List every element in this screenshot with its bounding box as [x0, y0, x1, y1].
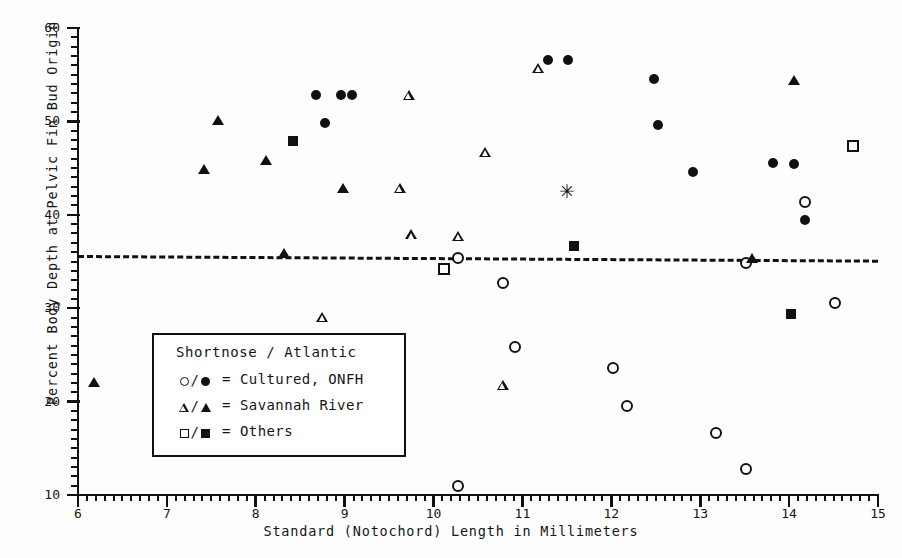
legend-label: Cultured, ONFH	[240, 371, 364, 387]
x-tick-minor	[539, 494, 541, 501]
y-tick-minor	[71, 475, 79, 477]
x-tick-minor	[681, 494, 683, 501]
data-point-circle-open	[799, 196, 811, 208]
x-tick-minor	[708, 494, 710, 501]
x-tick-minor	[655, 494, 657, 501]
data-point-circle-filled	[789, 159, 799, 169]
data-point-circle-open	[497, 277, 509, 289]
data-point-triangle-filled	[278, 248, 290, 258]
data-point-triangle-filled	[788, 75, 800, 85]
x-tick-minor	[388, 494, 390, 501]
y-tick-minor	[71, 270, 79, 272]
data-point-circle-filled	[311, 90, 321, 100]
data-point-circle-open	[452, 252, 464, 264]
y-tick-minor	[71, 176, 79, 178]
x-tick-label: 6	[58, 506, 98, 521]
legend-label: Savannah River	[240, 397, 364, 413]
data-point-triangle-filled	[337, 183, 349, 193]
y-tick-minor	[71, 429, 79, 431]
y-tick-major	[67, 27, 80, 29]
x-tick-minor	[459, 494, 461, 501]
x-tick-minor	[673, 494, 675, 501]
x-tick-minor	[424, 494, 426, 501]
x-tick-minor	[770, 494, 772, 501]
x-tick-minor	[397, 494, 399, 501]
data-point-circle-filled	[688, 167, 698, 177]
data-point-circle-filled	[336, 90, 346, 100]
x-tick-minor	[513, 494, 515, 501]
y-tick-minor	[71, 167, 79, 169]
x-tick-minor	[86, 494, 88, 501]
reference-line	[78, 255, 878, 263]
x-tick-minor	[113, 494, 115, 501]
legend-slash: /	[189, 424, 202, 440]
x-tick-minor	[557, 494, 559, 501]
x-tick-minor	[468, 494, 470, 501]
y-tick-minor	[71, 335, 79, 337]
circle-open-icon	[180, 377, 189, 386]
x-tick-minor	[779, 494, 781, 501]
x-tick-minor	[637, 494, 639, 501]
x-tick-minor	[130, 494, 132, 501]
square-filled-icon	[201, 429, 210, 438]
data-point-triangle-open	[497, 380, 509, 390]
y-tick-minor	[71, 223, 79, 225]
x-tick-minor	[753, 494, 755, 501]
y-tick-minor	[71, 326, 79, 328]
data-point-triangle-filled	[212, 115, 224, 125]
y-tick-label: 40	[24, 207, 60, 222]
x-tick-minor	[121, 494, 123, 501]
data-point-circle-open	[710, 427, 722, 439]
x-tick-minor	[486, 494, 488, 501]
triangle-filled-icon	[201, 403, 211, 412]
y-tick-minor	[71, 382, 79, 384]
x-tick-minor	[575, 494, 577, 501]
x-tick-minor	[619, 494, 621, 501]
x-tick-minor	[361, 494, 363, 501]
y-tick-minor	[71, 64, 79, 66]
y-tick-minor	[71, 466, 79, 468]
x-tick-minor	[664, 494, 666, 501]
y-tick-minor	[71, 251, 79, 253]
data-point-circle-filled	[563, 55, 573, 65]
legend-row: /=Others	[168, 423, 293, 447]
y-tick-label: 30	[24, 300, 60, 315]
y-tick-major	[67, 400, 80, 402]
data-point-square-filled	[786, 309, 796, 319]
y-tick-minor	[71, 485, 79, 487]
y-tick-minor	[71, 419, 79, 421]
x-tick-minor	[593, 494, 595, 501]
y-tick-major	[67, 120, 80, 122]
x-tick-label: 15	[858, 506, 898, 521]
x-tick-minor	[646, 494, 648, 501]
y-tick-minor	[71, 92, 79, 94]
y-tick-minor	[71, 242, 79, 244]
data-point-circle-open	[740, 463, 752, 475]
data-point-triangle-filled	[198, 164, 210, 174]
data-point-circle-open	[509, 341, 521, 353]
x-tick-minor	[530, 494, 532, 501]
data-point-square-filled	[569, 241, 579, 251]
data-point-circle-filled	[347, 90, 357, 100]
y-tick-minor	[71, 279, 79, 281]
x-tick-minor	[806, 494, 808, 501]
x-tick-label: 13	[680, 506, 720, 521]
y-tick-minor	[71, 195, 79, 197]
x-tick-minor	[601, 494, 603, 501]
x-tick-minor	[744, 494, 746, 501]
x-tick-minor	[95, 494, 97, 501]
x-tick-minor	[450, 494, 452, 501]
x-tick-label: 14	[769, 506, 809, 521]
x-tick-minor	[379, 494, 381, 501]
x-tick-minor	[859, 494, 861, 501]
data-point-triangle-open	[403, 90, 415, 100]
x-tick-label: 10	[414, 506, 454, 521]
x-tick-minor	[139, 494, 141, 501]
data-point-circle-filled	[768, 158, 778, 168]
x-tick-minor	[441, 494, 443, 501]
data-point-circle-filled	[320, 118, 330, 128]
x-tick-minor	[353, 494, 355, 501]
x-tick-minor	[584, 494, 586, 501]
x-tick-minor	[628, 494, 630, 501]
y-tick-minor	[71, 410, 79, 412]
